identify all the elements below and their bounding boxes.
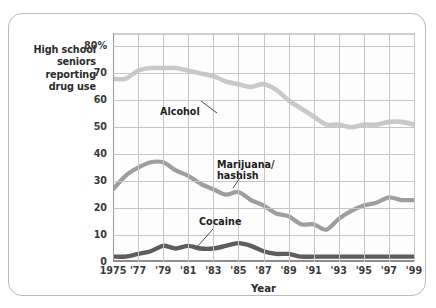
x-axis-ticks: 1975'77'79'81'83'85'87'89'91'93'95'97'99 (113, 265, 414, 281)
y-tick-0: 0 (49, 256, 107, 267)
plot-area (113, 33, 414, 262)
annotation-leader-lines (113, 33, 414, 262)
x-tick-1999: '99 (406, 265, 422, 276)
x-tick-1997: '97 (381, 265, 397, 276)
x-tick-1979: '79 (155, 265, 171, 276)
x-tick-1995: '95 (356, 265, 372, 276)
y-tick-70: 70 (49, 67, 107, 78)
annotation-marijuana-line-1: Marijuana/ (217, 159, 274, 170)
y-tick-50: 50 (49, 121, 107, 132)
chart-figure: High school seniors reporting drug use 8… (0, 0, 436, 308)
x-tick-1985: '85 (230, 265, 246, 276)
alcohol-leader-line (201, 101, 217, 113)
y-tick-30: 30 (49, 175, 107, 186)
y-tick-10: 10 (49, 229, 107, 240)
x-tick-1977: '77 (130, 265, 146, 276)
annotation-marijuana: Marijuana/ hashish (217, 159, 274, 182)
x-tick-1989: '89 (280, 265, 296, 276)
x-axis-title: Year (113, 283, 414, 294)
y-tick-20: 20 (49, 202, 107, 213)
annotation-cocaine: Cocaine (199, 216, 241, 227)
x-tick-1983: '83 (205, 265, 221, 276)
cocaine-leader-line (197, 229, 213, 247)
x-tick-1993: '93 (331, 265, 347, 276)
x-tick-1987: '87 (255, 265, 271, 276)
y-tick-40: 40 (49, 148, 107, 159)
x-tick-1981: '81 (180, 265, 196, 276)
y-axis-ticks: 80%706050403020100 (47, 33, 107, 262)
x-tick-1991: '91 (306, 265, 322, 276)
annotation-alcohol: Alcohol (160, 106, 200, 117)
annotation-marijuana-line-2: hashish (217, 170, 274, 181)
y-tick-80: 80% (49, 40, 107, 51)
y-tick-60: 60 (49, 94, 107, 105)
gridline-v-1999 (414, 33, 415, 262)
x-tick-1975: 1975 (100, 265, 127, 276)
